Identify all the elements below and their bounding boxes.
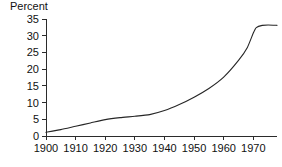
x-tick-label-group: 19001910192019301940195019601970 xyxy=(34,142,266,154)
x-tick-label: 1970 xyxy=(241,142,265,154)
x-tick-label: 1950 xyxy=(182,142,206,154)
y-tick-label: 10 xyxy=(27,97,39,109)
y-tick-label: 0 xyxy=(33,130,39,142)
x-tick-label: 1920 xyxy=(93,142,117,154)
x-tick-label: 1930 xyxy=(123,142,147,154)
x-tick-label: 1900 xyxy=(34,142,58,154)
y-tick-label: 5 xyxy=(33,113,39,125)
y-tick-label: 15 xyxy=(27,80,39,92)
y-tick-label-group: 05101520253035 xyxy=(27,13,39,142)
chart-plot-area: 05101520253035 1900191019201930194019501… xyxy=(0,0,282,167)
y-tick-label: 30 xyxy=(27,30,39,42)
x-tick-label: 1960 xyxy=(211,142,235,154)
x-tick-label: 1940 xyxy=(152,142,176,154)
y-tick-label: 20 xyxy=(27,63,39,75)
chart-container: Percent 05101520253035 19001910192019301… xyxy=(0,0,282,167)
data-series-line xyxy=(46,25,277,132)
x-tick-label: 1910 xyxy=(63,142,87,154)
y-tick-label: 25 xyxy=(27,46,39,58)
y-tick-label: 35 xyxy=(27,13,39,25)
